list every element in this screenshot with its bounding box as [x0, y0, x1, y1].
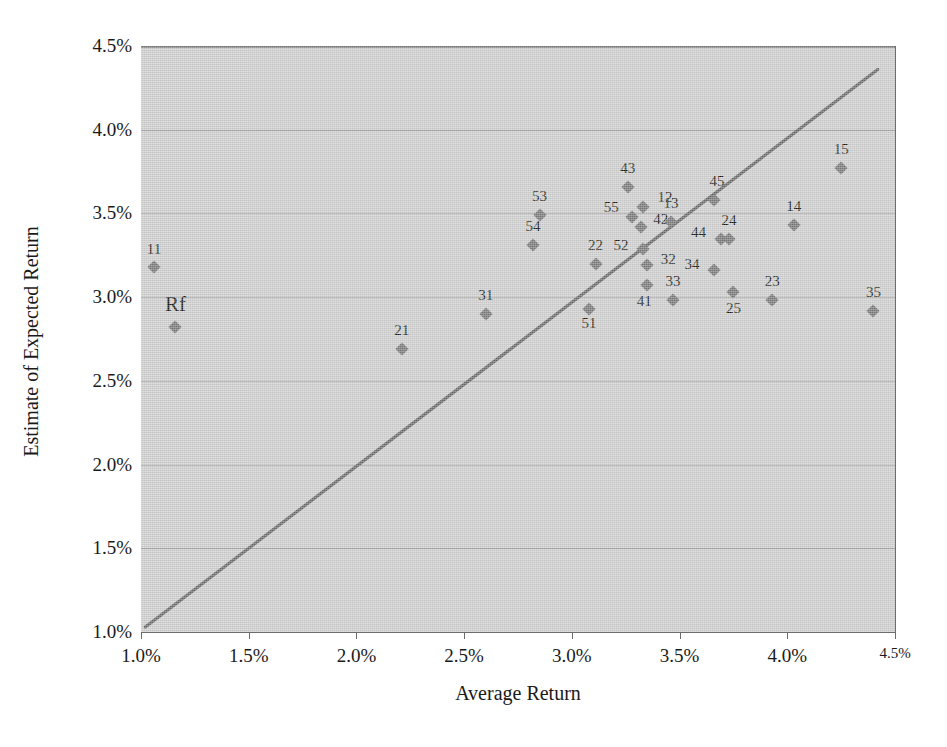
x-tickmark	[141, 632, 142, 639]
y-tick-label: 2.5%	[36, 370, 132, 392]
y-tick-label: 2.0%	[36, 454, 132, 476]
y-tick-label: 4.0%	[36, 119, 132, 141]
x-tick-label: 2.5%	[444, 645, 484, 667]
data-point-label: 43	[620, 161, 635, 176]
gridline	[141, 632, 895, 633]
data-point-label: 22	[588, 238, 603, 253]
data-point-label: 31	[478, 288, 493, 303]
data-point-label: 44	[691, 225, 706, 240]
data-point-label: 35	[866, 285, 881, 300]
x-tickmark	[464, 632, 465, 639]
x-tickmark	[680, 632, 681, 639]
x-tick-label: 4.5%	[879, 645, 910, 662]
x-axis-title: Average Return	[141, 682, 895, 705]
data-point-label: 55	[604, 200, 619, 215]
y-tick-label: 1.0%	[36, 621, 132, 643]
data-point-label: 41	[637, 294, 652, 309]
y-axis-title: Estimate of Expected Return	[20, 49, 43, 635]
data-point-label: 45	[710, 174, 725, 189]
y-tick-label: 1.5%	[36, 537, 132, 559]
x-tick-label: 4.0%	[767, 645, 807, 667]
scatter-chart: 11Rf213154535122435542125232411333453444…	[0, 0, 947, 747]
x-tickmark	[895, 632, 896, 639]
data-point-label: 24	[722, 213, 737, 228]
data-point-label: 51	[582, 316, 597, 331]
plot-area: 11Rf213154535122435542125232411333453444…	[141, 46, 896, 633]
data-point-label: 52	[613, 238, 628, 253]
data-point-label: Rf	[165, 294, 186, 315]
data-point-label: 23	[765, 274, 780, 289]
data-point-label: 34	[685, 257, 700, 272]
x-tickmark	[572, 632, 573, 639]
data-point-label: 13	[663, 196, 678, 211]
data-point-label: 25	[726, 301, 741, 316]
reference-line	[141, 46, 895, 632]
y-tick-label: 3.0%	[36, 286, 132, 308]
data-point-label: 15	[834, 142, 849, 157]
data-point-label: 33	[666, 274, 681, 289]
x-tickmark	[787, 632, 788, 639]
y-tick-label: 3.5%	[36, 202, 132, 224]
data-point-label: 53	[532, 189, 547, 204]
data-point-label: 54	[526, 219, 541, 234]
x-tick-label: 2.0%	[337, 645, 377, 667]
y-tick-label: 4.5%	[36, 35, 132, 57]
data-point-label: 21	[394, 323, 409, 338]
data-point-label: 32	[661, 252, 676, 267]
data-point-label: 14	[786, 199, 801, 214]
x-tick-label: 3.5%	[660, 645, 700, 667]
x-tickmark	[356, 632, 357, 639]
x-tick-label: 1.5%	[229, 645, 269, 667]
x-tick-label: 3.0%	[552, 645, 592, 667]
x-axis-ticks: 1.0%1.5%2.0%2.5%3.0%3.5%4.0%4.5%	[0, 645, 947, 675]
x-tickmark	[249, 632, 250, 639]
x-tick-label: 1.0%	[121, 645, 161, 667]
data-point-label: 11	[147, 242, 161, 257]
